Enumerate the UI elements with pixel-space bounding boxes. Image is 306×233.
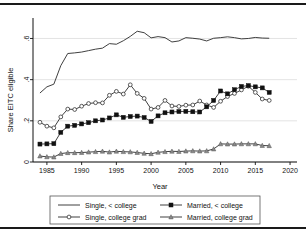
legend-swatch-marker-1: [169, 203, 173, 207]
data-point-2-14: [135, 114, 139, 118]
data-point-1-17: [156, 106, 160, 110]
data-point-2-17: [156, 114, 160, 118]
data-point-1-23: [198, 99, 202, 103]
x-tick-label-5: 2010: [213, 167, 229, 174]
data-point-2-18: [163, 111, 167, 115]
data-point-1-1: [45, 124, 49, 128]
data-point-1-22: [191, 103, 195, 107]
x-axis-title: Year: [152, 182, 168, 191]
data-point-1-4: [66, 107, 70, 111]
x-tick-label-1: 1990: [74, 167, 90, 174]
x-tick-label-2: 1995: [109, 167, 125, 174]
data-point-1-12: [121, 92, 125, 96]
data-point-2-26: [219, 89, 223, 93]
legend-swatch-marker-2: [67, 215, 71, 219]
data-point-2-11: [114, 113, 118, 117]
data-point-1-2: [52, 126, 56, 130]
legend-label-2: Single, college grad: [85, 214, 147, 222]
data-point-1-26: [219, 99, 223, 103]
legend-label-1: Married, < college: [187, 202, 243, 210]
data-point-2-4: [66, 124, 70, 128]
y-tick-label-2: .4: [23, 77, 30, 83]
data-point-2-3: [59, 130, 63, 134]
x-tick-label-6: 2015: [248, 167, 264, 174]
y-axis-tick-labels: 0.2.4.6: [23, 35, 30, 164]
data-point-1-31: [253, 91, 257, 95]
x-axis-tick-labels: 19851990199520002005201020152020: [39, 167, 298, 174]
data-point-1-19: [170, 104, 174, 108]
data-point-1-9: [101, 101, 105, 105]
y-tick-label-0: 0: [23, 160, 30, 164]
legend-label-0: Single, < college: [85, 202, 137, 210]
plot-series-group: [38, 31, 272, 159]
data-point-2-29: [239, 84, 243, 88]
data-point-2-5: [73, 123, 77, 127]
series-line-0: [40, 31, 269, 93]
data-point-2-13: [128, 115, 132, 119]
top-divider-rule: [0, 3, 306, 5]
data-point-2-8: [94, 119, 98, 123]
data-point-2-2: [52, 142, 56, 146]
data-point-1-3: [59, 115, 63, 119]
data-point-2-10: [107, 116, 111, 120]
x-tick-label-7: 2020: [282, 167, 298, 174]
data-point-1-0: [38, 120, 42, 124]
data-point-2-16: [149, 119, 153, 123]
data-point-2-7: [87, 121, 91, 125]
data-point-1-7: [87, 102, 91, 106]
data-point-2-24: [205, 105, 209, 109]
data-point-2-32: [260, 86, 264, 90]
data-point-2-9: [100, 118, 104, 122]
data-point-1-14: [135, 92, 139, 96]
data-point-1-5: [73, 108, 77, 112]
data-point-1-33: [267, 99, 271, 103]
data-point-2-23: [198, 110, 202, 114]
data-point-2-0: [38, 142, 42, 146]
data-point-1-13: [128, 83, 132, 87]
data-point-2-27: [226, 92, 230, 96]
data-point-2-19: [170, 110, 174, 114]
data-point-1-28: [233, 92, 237, 96]
data-point-2-25: [212, 98, 216, 102]
x-tick-label-4: 2005: [178, 167, 194, 174]
data-point-1-20: [177, 105, 181, 109]
data-point-2-28: [232, 88, 236, 92]
eitc-eligibility-line-chart: 0.2.4.6 19851990199520002005201020152020…: [0, 0, 306, 233]
series-0: [40, 31, 269, 93]
data-point-2-22: [191, 110, 195, 114]
data-point-2-1: [45, 142, 49, 146]
legend-label-3: Married, college grad: [187, 214, 253, 222]
y-tick-label-3: .6: [23, 35, 30, 41]
y-axis-title: Share EITC eligible: [6, 68, 15, 133]
series-3: [38, 142, 272, 159]
figure-container: 0.2.4.6 19851990199520002005201020152020…: [0, 0, 306, 233]
data-point-1-15: [142, 96, 146, 100]
y-tick-label-1: .2: [23, 118, 30, 124]
data-point-2-15: [142, 116, 146, 120]
bottom-divider-rule: [0, 227, 306, 229]
data-point-1-11: [114, 89, 118, 93]
data-point-1-16: [149, 107, 153, 111]
chart-legend: Single, < collegeMarried, < collegeSingl…: [50, 196, 260, 224]
data-point-2-20: [177, 110, 181, 114]
data-point-1-6: [80, 104, 84, 108]
data-point-2-31: [253, 85, 257, 89]
data-point-1-25: [212, 106, 216, 110]
x-tick-label-3: 2000: [143, 167, 159, 174]
x-tick-label-0: 1985: [39, 167, 55, 174]
data-point-2-30: [246, 84, 250, 88]
data-point-1-32: [260, 97, 264, 101]
data-point-1-21: [184, 103, 188, 107]
data-point-1-8: [94, 101, 98, 105]
data-point-2-21: [184, 109, 188, 113]
data-point-1-10: [108, 93, 112, 97]
data-point-2-33: [267, 90, 271, 94]
data-point-2-6: [80, 122, 84, 126]
data-point-1-18: [163, 99, 167, 103]
data-point-2-12: [121, 115, 125, 119]
